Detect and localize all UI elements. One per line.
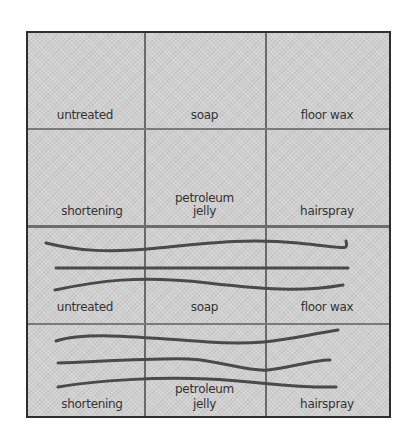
strand-row4-2 (58, 359, 330, 370)
treatment-grid: untreated soap floor wax shortening petr… (26, 31, 391, 418)
label-r1-floor-wax: floor wax (265, 109, 389, 122)
label-r4-shortening: shortening (42, 398, 142, 411)
label-r4-hairspray: hairspray (265, 398, 389, 411)
label-r1-untreated: untreated (40, 109, 130, 122)
label-r4-jelly: jelly (144, 398, 265, 411)
strand-row3-3 (55, 279, 343, 290)
label-r1-soap: soap (144, 109, 265, 122)
label-r3-soap: soap (144, 301, 265, 314)
label-r3-untreated: untreated (40, 301, 130, 314)
label-r2-hairspray: hairspray (265, 205, 389, 218)
label-r2-shortening: shortening (42, 205, 142, 218)
strands-illustration (28, 33, 389, 416)
label-r2-jelly: jelly (144, 205, 265, 218)
strand-row4-1 (56, 330, 338, 343)
strand-row3-1 (46, 241, 347, 251)
label-r4-petroleum: petroleum (144, 383, 265, 396)
label-r3-floor-wax: floor wax (265, 301, 389, 314)
